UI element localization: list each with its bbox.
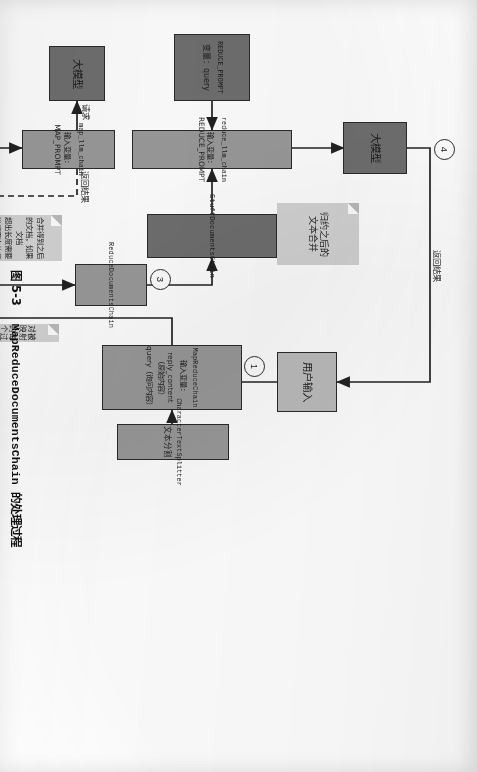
node-reduce-prompt: REDUCE_PROMPT 变量：query [174, 34, 250, 101]
node-reduce-documents-chain: ReduceDocumentsChain [75, 264, 147, 306]
node-reduce-prompt-line2: 变量：query [201, 44, 211, 91]
node-reduce-documents-chain-label: ReduceDocumentsChain [107, 242, 116, 328]
node-user-input-label: 用户输入 [300, 362, 313, 402]
node-text-splitter: CharacterTextSplitter 文本分割 [117, 424, 229, 460]
note-merge-doc-label: 合并得到之后的文档，如果文档 超出长度需要进行再次的归约 [0, 215, 45, 261]
step-marker-4: 4 [434, 139, 455, 160]
node-reduce-llm-chain: reduce_llm_chain 输入变量：REDUCE_PROMPT [132, 130, 292, 169]
rotated-figure-canvas: 大模型 用户输入 REDUCE_PROMPT 变量：query reduce_l… [0, 0, 477, 772]
node-text-splitter-line2: 文本分割 [163, 426, 172, 458]
figure-caption: 图 5-3 MapReduceDocumentsChain 的处理过程 [9, 270, 25, 547]
note-merge-doc: 合并得到之后的文档，如果文档 超出长度需要进行再次的归约 [0, 215, 62, 261]
step-marker-4-label: 4 [439, 147, 450, 152]
node-mapreduce-chain-line2: 输入变量： [178, 360, 187, 395]
edge-label-request: 请求 [81, 104, 93, 120]
node-reduce-prompt-line1: REDUCE_PROMPT [214, 41, 222, 94]
node-llm-top-label: 大模型 [368, 133, 381, 163]
step-marker-3-label: 3 [155, 277, 166, 282]
node-mapreduce-chain-line3: reply_content（原始内容） [157, 346, 176, 409]
node-reduce-llm-chain-line2: 输入变量：REDUCE_PROMPT [197, 117, 216, 182]
edge-label-return-result-dashed-text: 返回结果 [80, 171, 90, 203]
node-mapreduce-chain-line4: query（询问内容） [145, 346, 154, 409]
node-llm-top: 大模型 [343, 122, 407, 174]
edge-label-request-text: 请求 [81, 104, 91, 120]
note-merged-text: 归约之后的 文本合并 [277, 203, 359, 265]
node-mapreduce-chain-line1: MapReduceChain [191, 347, 200, 407]
node-llm-left-label: 大模型 [70, 59, 83, 89]
node-stuff-documents-chain-label: StuffDocumentsChain [208, 194, 217, 278]
node-mapreduce-chain: MapReduceChain 输入变量： reply_content（原始内容）… [102, 345, 242, 410]
node-text-splitter-line1: CharacterTextSplitter [175, 398, 183, 486]
step-marker-1: 1 [244, 356, 265, 377]
node-stuff-documents-chain: StuffDocumentsChain [147, 214, 277, 258]
node-llm-left: 大模型 [49, 46, 105, 101]
edge-label-return-result-text: 返回结果 [432, 250, 442, 282]
node-map-llm-chain: map_llm_chain 输入变量：MAP_PROMPT [22, 130, 115, 169]
node-user-input: 用户输入 [277, 352, 337, 412]
scanned-page: 大模型 用户输入 REDUCE_PROMPT 变量：query reduce_l… [0, 0, 477, 772]
edge-label-return-result-dashed: 返回结果 [80, 171, 92, 203]
edge-label-return-result: 返回结果 [432, 250, 444, 282]
figure-caption-number: 图 5-3 [9, 270, 23, 306]
node-map-llm-chain-line2: 输入变量：MAP_PROMPT [53, 124, 72, 174]
node-map-llm-chain-line1: map_llm_chain [76, 123, 84, 176]
diagram-canvas: 大模型 用户输入 REDUCE_PROMPT 变量：query reduce_l… [0, 0, 477, 772]
note-merged-text-label: 归约之后的 文本合并 [307, 212, 330, 257]
node-reduce-llm-chain-line1: reduce_llm_chain [219, 117, 227, 182]
step-marker-1-label: 1 [249, 364, 260, 369]
figure-caption-text: MapReduceDocumentsChain 的处理过程 [9, 324, 22, 548]
step-marker-3: 3 [150, 269, 171, 290]
